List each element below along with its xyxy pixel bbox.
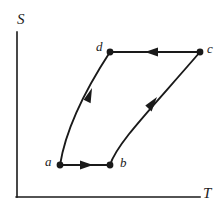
temperature-axis-label: T [203, 186, 211, 201]
state-point-b [107, 162, 114, 169]
state-point-d [107, 49, 114, 56]
entropy-axis-label: S [17, 12, 25, 27]
state-point-label-b: b [120, 156, 127, 169]
arrowhead-c-to-d [145, 48, 158, 57]
cycle-paths-group [60, 52, 200, 165]
segment-d-to-a [60, 52, 110, 165]
thermodynamic-cycle-figure: S T a b c d [0, 0, 223, 210]
state-point-a [57, 162, 64, 169]
state-point-c [197, 49, 204, 56]
state-point-label-a: a [45, 155, 52, 168]
cycle-diagram-canvas [0, 0, 223, 210]
arrowhead-a-to-b [80, 161, 93, 170]
direction-arrowheads-group [80, 48, 158, 170]
state-point-label-d: d [96, 40, 103, 53]
axes-group [16, 32, 200, 197]
segment-b-to-c [110, 52, 200, 165]
state-point-label-c: c [207, 42, 213, 55]
